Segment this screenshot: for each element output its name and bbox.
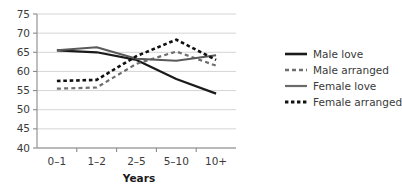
x-axis-tick-labels: 0–11–22–55–1010+ bbox=[48, 155, 228, 167]
legend-item-male-love: Male love bbox=[285, 46, 393, 62]
x-axis-title: Years bbox=[122, 172, 155, 184]
legend-swatch-female-love bbox=[285, 80, 307, 92]
x-tick-label: 2–5 bbox=[127, 155, 146, 167]
y-tick-label: 75 bbox=[17, 8, 30, 20]
legend-label-male-love: Male love bbox=[313, 48, 363, 60]
legend-item-female-arranged: Female arranged bbox=[285, 94, 393, 110]
data-series-group bbox=[57, 40, 216, 94]
x-axis-ticks bbox=[77, 148, 196, 152]
x-tick-label: 0–1 bbox=[48, 155, 67, 167]
y-tick-label: 50 bbox=[17, 103, 30, 115]
legend-label-female-love: Female love bbox=[313, 80, 376, 92]
x-tick-label: 1–2 bbox=[87, 155, 106, 167]
legend-swatch-male-love bbox=[285, 48, 307, 60]
legend-item-male-arranged: Male arranged bbox=[285, 62, 393, 78]
y-tick-label: 40 bbox=[17, 142, 30, 154]
x-tick-label: 5–10 bbox=[164, 155, 189, 167]
y-tick-label: 70 bbox=[17, 27, 30, 39]
x-tick-label: 10+ bbox=[205, 155, 227, 167]
y-tick-label: 45 bbox=[17, 122, 30, 134]
legend-label-female-arranged: Female arranged bbox=[313, 96, 402, 108]
legend-label-male-arranged: Male arranged bbox=[313, 64, 389, 76]
legend-swatch-male-arranged bbox=[285, 64, 307, 76]
chart-legend: Male love Male arranged Female love Fema… bbox=[285, 46, 393, 110]
y-tick-label: 55 bbox=[17, 84, 30, 96]
series-line bbox=[57, 47, 216, 60]
y-axis-tick-labels: 4045505560657075 bbox=[17, 8, 37, 154]
legend-swatch-female-arranged bbox=[285, 96, 307, 108]
y-tick-label: 60 bbox=[17, 65, 30, 77]
y-tick-label: 65 bbox=[17, 46, 30, 58]
legend-item-female-love: Female love bbox=[285, 78, 393, 94]
